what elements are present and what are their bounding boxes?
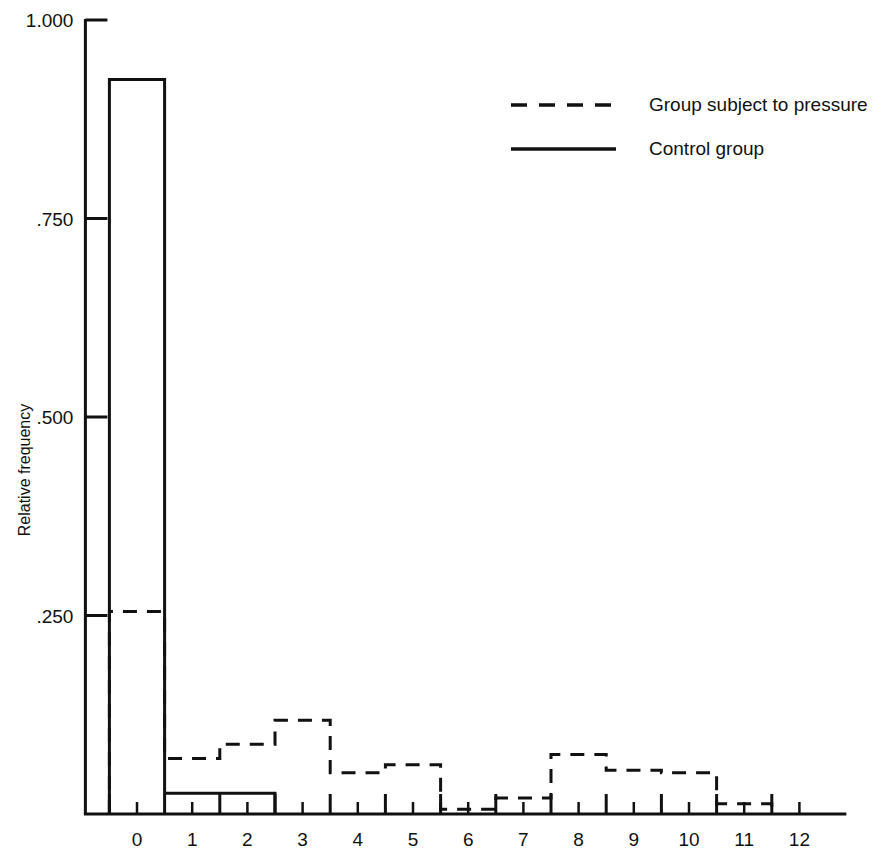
x-tick-label-8: 8 (573, 829, 584, 850)
x-tick-label-12: 12 (789, 829, 810, 850)
x-tick-label-0: 0 (132, 829, 143, 850)
x-tick-label-7: 7 (518, 829, 529, 850)
y-tick-label-1: .750 (36, 209, 73, 230)
x-tick-label-11: 11 (734, 829, 754, 850)
y-tick-label-2: .500 (36, 407, 73, 428)
x-tick-label-10: 10 (678, 829, 699, 850)
y-axis-ticks (85, 20, 107, 616)
y-axis-title: Relative frequency (16, 404, 33, 537)
legend-label-0: Group subject to pressure (649, 94, 868, 115)
x-tick-label-1: 1 (187, 829, 198, 850)
chart-figure: Relative frequency 1.000.750.500.250 012… (0, 0, 882, 866)
y-tick-label-0: 1.000 (26, 10, 74, 31)
x-tick-label-5: 5 (408, 829, 419, 850)
series-group-subject-to-pressure (109, 612, 771, 814)
x-tick-label-6: 6 (463, 829, 474, 850)
x-tick-label-3: 3 (297, 829, 308, 850)
y-tick-label-3: .250 (36, 606, 73, 627)
x-tick-label-2: 2 (242, 829, 253, 850)
series-layer (109, 80, 771, 814)
x-axis-ticks (109, 794, 799, 814)
legend-label-1: Control group (649, 138, 764, 159)
x-axis-tick-labels: 0123456789101112 (132, 829, 810, 850)
x-tick-label-4: 4 (353, 829, 364, 850)
histogram-chart: Relative frequency 1.000.750.500.250 012… (0, 0, 882, 866)
x-tick-label-9: 9 (629, 829, 640, 850)
chart-legend: Group subject to pressureControl group (511, 94, 868, 159)
series-control-group (109, 80, 275, 814)
